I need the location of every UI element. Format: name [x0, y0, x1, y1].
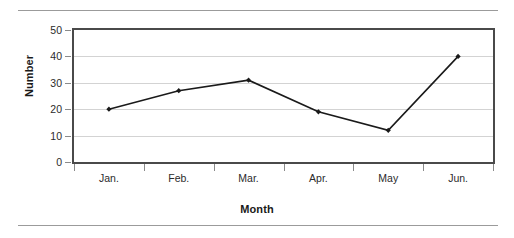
bottom-divider-rule [18, 225, 498, 226]
data-point-marker [246, 78, 251, 83]
x-axis-tick-mark [493, 164, 494, 171]
x-axis-tick-mark [423, 164, 424, 171]
x-axis-tick-label: Feb. [144, 172, 214, 184]
data-point-marker [176, 88, 181, 93]
y-axis-tick-mark [65, 136, 71, 137]
data-point-marker [106, 107, 111, 112]
y-axis-tick-label: 40 [36, 51, 62, 61]
y-axis-tick-label: 0 [36, 157, 62, 167]
x-axis-tick-mark [214, 164, 215, 171]
line-chart-figure: Number 01020304050 Jan.Feb.Mar.Apr.MayJu… [0, 0, 514, 238]
plot-area [72, 28, 495, 164]
y-axis-tick-mark [65, 30, 71, 31]
y-axis-tick-label: 10 [36, 131, 62, 141]
x-axis-tick-label: Mar. [214, 172, 284, 184]
y-axis-tick-mark [65, 109, 71, 110]
x-axis-tick-mark [353, 164, 354, 171]
x-axis-tick-mark [74, 164, 75, 171]
y-axis-tick-mark [65, 162, 71, 163]
x-axis-tick-mark [284, 164, 285, 171]
x-axis-tick-label: Apr. [284, 172, 354, 184]
y-axis-title: Number [23, 41, 35, 111]
y-axis-tick-label: 20 [36, 104, 62, 114]
x-axis-tick-label: Jun. [423, 172, 493, 184]
top-divider-rule [18, 10, 498, 11]
y-axis-tick-mark [65, 56, 71, 57]
series-line [109, 56, 458, 130]
x-axis-tick-mark [144, 164, 145, 171]
plot-inner [74, 30, 493, 162]
y-axis-tick-mark [65, 83, 71, 84]
y-axis-tick-label: 30 [36, 78, 62, 88]
data-series-svg [74, 30, 493, 162]
data-point-marker [316, 109, 321, 114]
x-axis-tick-label: May [353, 172, 423, 184]
x-axis-tick-label: Jan. [74, 172, 144, 184]
y-axis-tick-label: 50 [36, 25, 62, 35]
x-axis-title: Month [0, 203, 514, 215]
